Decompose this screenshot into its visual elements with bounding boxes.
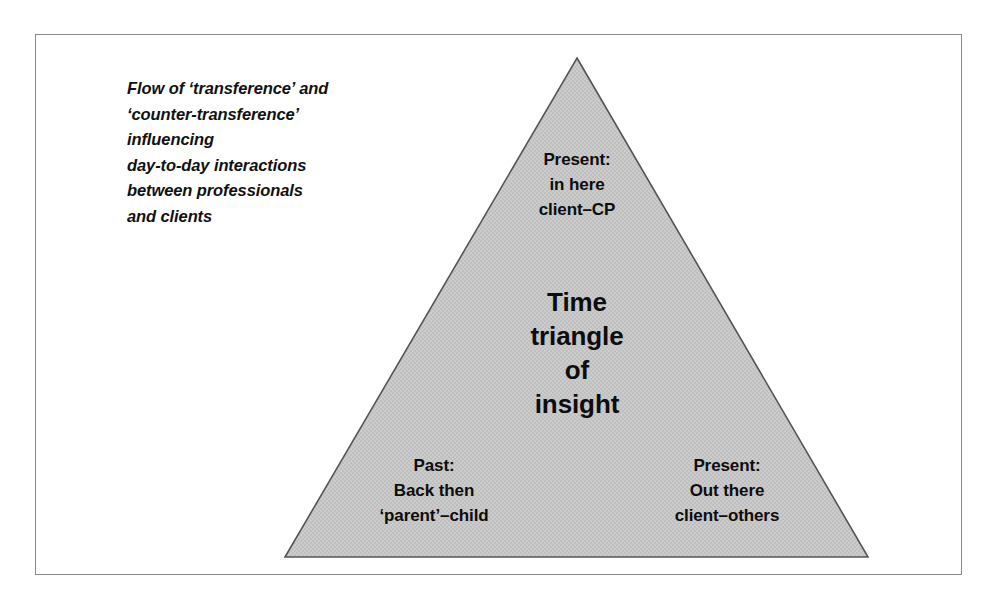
- apex-label-line: in here: [477, 172, 677, 197]
- triangle-bottom-left-label: Past: Back then ‘parent’–child: [334, 453, 534, 528]
- caption-line: between professionals: [127, 178, 427, 204]
- bottom-right-label-line: Present:: [627, 453, 827, 478]
- caption-line: day-to-day interactions: [127, 153, 427, 179]
- center-label-line: triangle: [457, 319, 697, 353]
- caption-line: and clients: [127, 204, 427, 230]
- bottom-right-label-line: Out there: [627, 478, 827, 503]
- bottom-left-label-line: Back then: [334, 478, 534, 503]
- caption-text: Flow of ‘transference’ and ‘counter-tran…: [127, 76, 427, 229]
- triangle-bottom-right-label: Present: Out there client–others: [627, 453, 827, 528]
- apex-label-line: Present:: [477, 147, 677, 172]
- diagram-figure: Flow of ‘transference’ and ‘counter-tran…: [0, 0, 998, 603]
- triangle-center-label: Time triangle of insight: [457, 285, 697, 421]
- triangle-apex-label: Present: in here client–CP: [477, 147, 677, 222]
- bottom-right-label-line: client–others: [627, 503, 827, 528]
- caption-line: influencing: [127, 127, 427, 153]
- apex-label-line: client–CP: [477, 197, 677, 222]
- center-label-line: of: [457, 353, 697, 387]
- bottom-left-label-line: Past:: [334, 453, 534, 478]
- caption-line: Flow of ‘transference’ and: [127, 76, 427, 102]
- caption-line: ‘counter-transference’: [127, 102, 427, 128]
- center-label-line: insight: [457, 387, 697, 421]
- center-label-line: Time: [457, 285, 697, 319]
- bottom-left-label-line: ‘parent’–child: [334, 503, 534, 528]
